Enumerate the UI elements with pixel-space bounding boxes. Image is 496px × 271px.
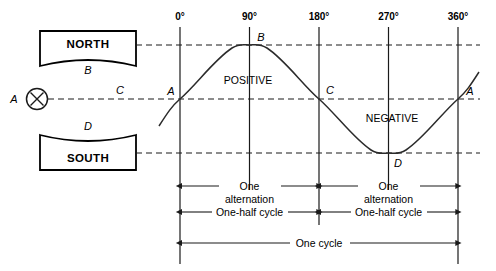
south-pole-label: SOUTH <box>67 152 109 164</box>
degree-label-180: 180° <box>309 11 330 22</box>
diagram-canvas: NORTH B SOUTH D A C 0° 90° 180° 27 <box>0 0 496 271</box>
north-pole-label: NORTH <box>67 38 110 50</box>
alternation-right-label-line1: One <box>379 180 399 192</box>
negative-region-label: NEGATIVE <box>366 112 418 124</box>
alternation-right-label-line2: alternation <box>364 193 413 205</box>
curve-point-b: B <box>257 31 264 43</box>
alternation-left-label-line2: alternation <box>225 193 274 205</box>
circled-x-glyph <box>31 93 44 106</box>
degree-label-270: 270° <box>378 11 399 22</box>
north-pole-block: NORTH B <box>40 31 136 76</box>
positive-region-label: POSITIVE <box>224 74 272 86</box>
alternation-right-annotation: One alternation <box>321 180 456 205</box>
half-cycle-right-annotation: One-half cycle <box>321 206 456 218</box>
full-cycle-annotation: One cycle <box>182 237 456 249</box>
full-cycle-label: One cycle <box>296 237 343 249</box>
degree-label-360: 360° <box>448 11 469 22</box>
half-cycle-left-label: One-half cycle <box>216 206 283 218</box>
alternation-left-label-line1: One <box>240 180 260 192</box>
alternation-left-annotation: One alternation <box>182 180 317 205</box>
sine-wave-diagram: NORTH B SOUTH D A C 0° 90° 180° 27 <box>0 0 496 271</box>
curve-point-c: C <box>326 84 334 96</box>
south-point-label: D <box>84 120 92 132</box>
curve-point-d: D <box>394 157 402 169</box>
north-point-label: B <box>84 64 91 76</box>
midline-point-label: C <box>116 84 124 96</box>
degree-label-0: 0° <box>175 11 185 22</box>
degree-label-90: 90° <box>242 11 257 22</box>
curve-point-a-start: A <box>166 85 174 97</box>
curve-point-a-end: A <box>465 85 473 97</box>
half-cycle-left-annotation: One-half cycle <box>182 206 317 218</box>
half-cycle-right-label: One-half cycle <box>355 206 422 218</box>
south-pole-block: SOUTH D <box>40 120 136 170</box>
conductor-label: A <box>9 93 17 105</box>
conductor-symbol: A <box>9 89 47 110</box>
